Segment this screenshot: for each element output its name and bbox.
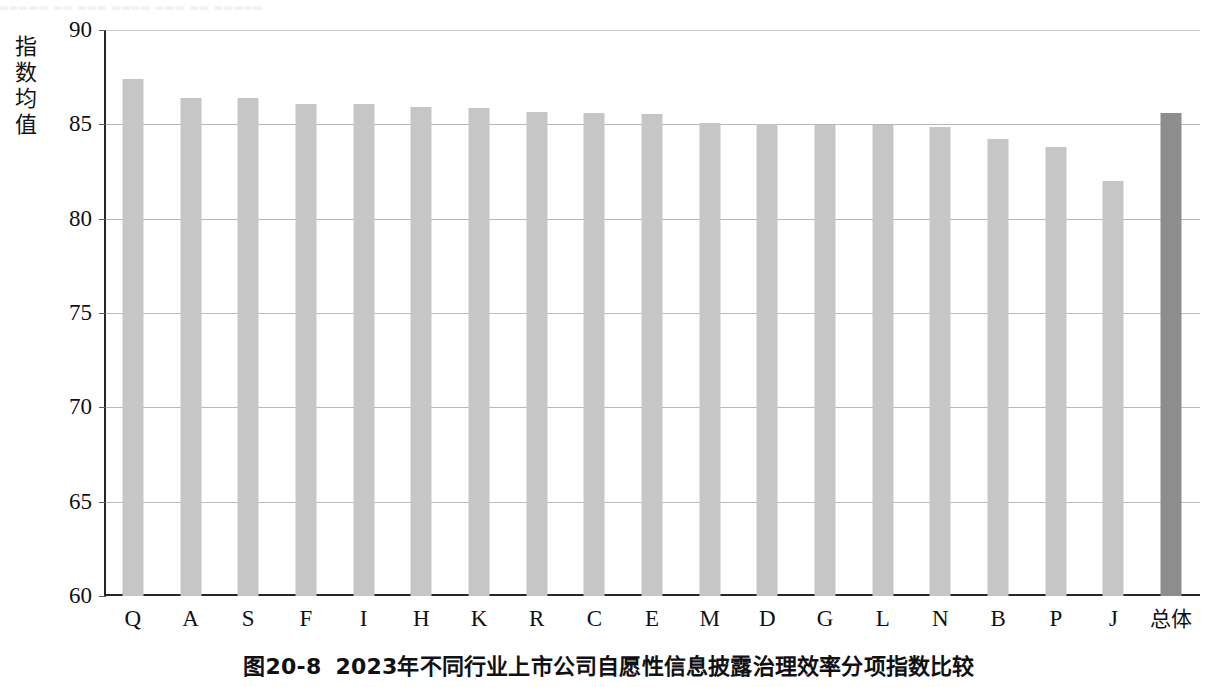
- y-axis-tick-labels: 90858075706560: [44, 0, 92, 687]
- x-axis-label-R: R: [529, 604, 544, 634]
- x-axis-label-H: H: [413, 604, 430, 634]
- x-axis-label-J: J: [1109, 604, 1118, 634]
- x-axis-label-A: A: [182, 604, 199, 634]
- bar-slot: [623, 30, 681, 596]
- x-axis-label-G: G: [817, 604, 834, 634]
- bar-I: [353, 104, 374, 596]
- y-axis-label-80: 80: [44, 207, 92, 230]
- y-tick-60: [99, 596, 106, 597]
- bar-F: [295, 104, 316, 596]
- bar-A: [180, 98, 201, 596]
- bar-S: [238, 98, 259, 596]
- bar-C: [584, 113, 605, 596]
- x-axis-label-P: P: [1049, 604, 1062, 634]
- figure-caption: 图20-82023年不同行业上市公司自愿性信息披露治理效率分项指数比较: [0, 652, 1218, 682]
- x-axis-label-S: S: [242, 604, 255, 634]
- y-axis-label-90: 90: [44, 18, 92, 41]
- bar-slot: [219, 30, 277, 596]
- x-axis-label-E: E: [645, 604, 659, 634]
- x-axis-label-Q: Q: [125, 604, 142, 634]
- bar-slot: [796, 30, 854, 596]
- bar-series: [104, 30, 1200, 596]
- figure-caption-number: 图20-8: [243, 654, 321, 679]
- bar-slot: [335, 30, 393, 596]
- bar-slot: [392, 30, 450, 596]
- bar-slot: [1027, 30, 1085, 596]
- bar-K: [468, 108, 489, 596]
- bar-总体: [1161, 113, 1182, 596]
- x-axis-label-D: D: [759, 604, 776, 634]
- bar-B: [988, 139, 1009, 596]
- y-axis-label-70: 70: [44, 395, 92, 418]
- bar-M: [699, 123, 720, 596]
- bar-slot: [277, 30, 335, 596]
- x-axis-label-N: N: [932, 604, 949, 634]
- bar-R: [526, 112, 547, 596]
- bar-slot: [969, 30, 1027, 596]
- y-axis-label-65: 65: [44, 490, 92, 513]
- bar-H: [411, 107, 432, 596]
- bar-J: [1103, 181, 1124, 596]
- bar-slot: [162, 30, 220, 596]
- bar-D: [757, 124, 778, 596]
- y-axis-title: 指数均值: [12, 34, 40, 138]
- x-axis-label-M: M: [699, 604, 719, 634]
- figure-bar-chart: 指数均值 90858075706560 QASFIHKRCEMDGLNBPJ总体…: [0, 0, 1218, 687]
- bar-slot: [104, 30, 162, 596]
- x-axis-label-F: F: [299, 604, 312, 634]
- bar-slot: [508, 30, 566, 596]
- bar-E: [641, 114, 662, 596]
- y-axis-label-85: 85: [44, 112, 92, 135]
- x-axis-label-B: B: [990, 604, 1005, 634]
- x-axis-tick-labels: QASFIHKRCEMDGLNBPJ总体: [104, 604, 1200, 644]
- x-axis-label-K: K: [471, 604, 488, 634]
- bar-P: [1045, 147, 1066, 596]
- bar-Q: [122, 79, 143, 596]
- x-axis-label-I: I: [360, 604, 368, 634]
- bar-slot: [1142, 30, 1200, 596]
- bar-slot: [565, 30, 623, 596]
- figure-caption-text: 2023年不同行业上市公司自愿性信息披露治理效率分项指数比较: [335, 654, 974, 679]
- x-axis-label-C: C: [587, 604, 602, 634]
- y-axis-label-60: 60: [44, 584, 92, 607]
- bar-slot: [681, 30, 739, 596]
- bar-slot: [912, 30, 970, 596]
- bar-slot: [1085, 30, 1143, 596]
- x-axis-label-L: L: [876, 604, 890, 634]
- x-axis-label-总体: 总体: [1150, 604, 1192, 634]
- bar-slot: [450, 30, 508, 596]
- bar-L: [872, 125, 893, 596]
- bar-slot: [739, 30, 797, 596]
- bar-G: [815, 125, 836, 596]
- y-axis-label-75: 75: [44, 301, 92, 324]
- bar-slot: [854, 30, 912, 596]
- bar-N: [930, 127, 951, 596]
